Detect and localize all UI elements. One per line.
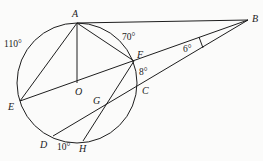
label-d: D <box>39 139 48 150</box>
angle-b-mark <box>199 37 203 48</box>
diagram-canvas: A B F C O E G D H 110° 70° 8° 6° 10° <box>0 0 263 161</box>
label-c: C <box>142 85 149 96</box>
label-angle-b: 6° <box>183 44 192 54</box>
label-h: H <box>78 143 87 154</box>
label-arc-dh: 10° <box>57 142 71 152</box>
segment-ae <box>20 23 77 101</box>
label-f: F <box>136 49 144 60</box>
chord-fh <box>83 61 134 141</box>
segment-ab <box>77 20 248 23</box>
label-arc-af: 70° <box>122 32 136 42</box>
segment-af <box>77 23 134 61</box>
label-arc-fc: 8° <box>139 67 148 77</box>
label-b: B <box>252 13 258 24</box>
label-a: A <box>71 8 79 19</box>
secant-dcb <box>53 20 248 136</box>
label-arc-ae: 110° <box>4 39 22 49</box>
label-g: G <box>93 95 100 106</box>
geometry-diagram: A B F C O E G D H 110° 70° 8° 6° 10° <box>0 0 263 161</box>
label-e: E <box>7 101 14 112</box>
label-o: O <box>75 86 82 97</box>
